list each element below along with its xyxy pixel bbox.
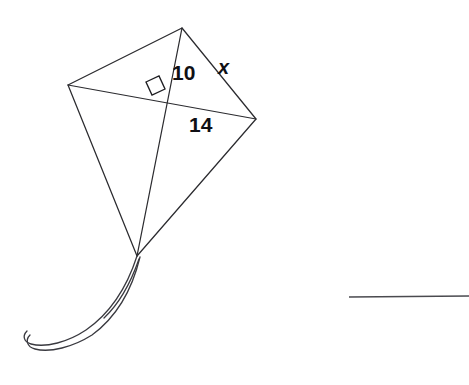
kite-tail-strand-outer (24, 256, 137, 345)
answer-blank-line[interactable] (349, 296, 469, 297)
figure-root: 10 x 14 (0, 0, 469, 385)
kite-tail-strand-inner (27, 257, 140, 350)
label-segment-10: 10 (172, 61, 195, 84)
kite-figure-canvas: 10 x 14 (0, 0, 469, 385)
label-segment-14: 14 (189, 113, 213, 136)
right-angle-icon (146, 76, 165, 95)
label-segment-x: x (217, 56, 230, 78)
